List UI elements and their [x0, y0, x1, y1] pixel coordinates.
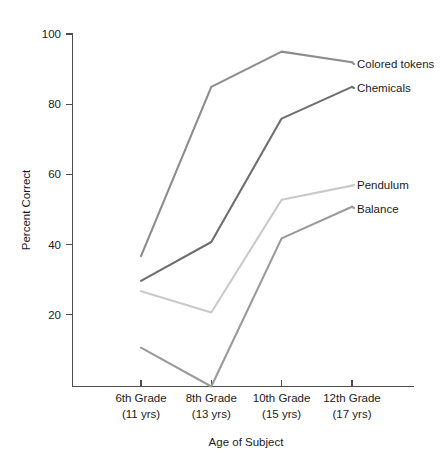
- y-axis-ticks: [66, 34, 73, 315]
- x-label-8th-grade-age: (13 yrs): [192, 408, 231, 420]
- x-label-10th-grade: 10th Grade: [253, 392, 311, 404]
- x-axis-title: Age of Subject: [209, 436, 285, 448]
- y-axis-tick-labels: 100 80 60 40 20: [42, 28, 61, 321]
- series-line-colored-tokens: [141, 52, 352, 257]
- series-leader-pendulum: [352, 185, 354, 186]
- x-axis-ticks: [141, 380, 352, 387]
- series-leader-colored-tokens: [352, 62, 354, 64]
- y-tick-label-60: 60: [48, 168, 61, 180]
- y-tick-label-80: 80: [48, 98, 61, 110]
- x-label-12th-grade-age: (17 yrs): [333, 408, 372, 420]
- x-label-6th-grade: 6th Grade: [115, 392, 166, 404]
- x-label-6th-grade-age: (11 yrs): [122, 408, 160, 420]
- x-label-8th-grade: 8th Grade: [186, 392, 237, 404]
- x-label-12th-grade: 12th Grade: [323, 392, 381, 404]
- data-series-group: [141, 52, 354, 387]
- x-label-10th-grade-age: (15 yrs): [262, 408, 301, 420]
- series-leader-chemicals: [352, 87, 354, 88]
- series-label-colored-tokens: Colored tokens: [357, 58, 435, 70]
- series-label-balance: Balance: [357, 203, 399, 215]
- y-tick-label-20: 20: [48, 309, 61, 321]
- x-axis-category-labels: 6th Grade (11 yrs) 8th Grade (13 yrs) 10…: [115, 392, 380, 420]
- series-label-chemicals: Chemicals: [357, 82, 411, 94]
- series-label-pendulum: Pendulum: [357, 179, 409, 191]
- series-leader-balance: [352, 207, 354, 208]
- line-chart-figure: 100 80 60 40 20 Percent Correct 6th Grad…: [0, 0, 447, 459]
- series-line-pendulum: [141, 186, 352, 313]
- series-line-balance: [141, 207, 352, 387]
- series-labels-group: Colored tokens Chemicals Pendulum Balanc…: [357, 58, 435, 215]
- y-tick-label-40: 40: [48, 239, 61, 251]
- series-line-chemicals: [141, 87, 352, 281]
- chart-canvas: 100 80 60 40 20 Percent Correct 6th Grad…: [0, 0, 447, 459]
- y-tick-label-100: 100: [42, 28, 61, 40]
- y-axis-title: Percent Correct: [20, 169, 32, 250]
